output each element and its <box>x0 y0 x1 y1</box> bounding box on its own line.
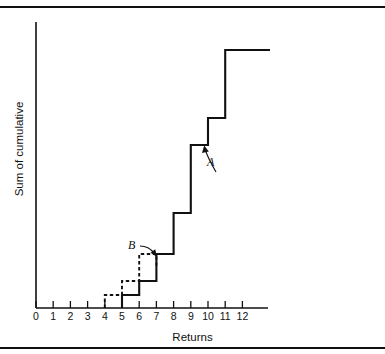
x-tick-label-3: 3 <box>80 310 96 322</box>
annotation-label-b: B <box>128 238 135 253</box>
x-tick-label-2: 2 <box>62 310 78 322</box>
x-axis-label: Returns <box>0 331 385 343</box>
annotation-label-a: A <box>207 155 214 170</box>
figure-container: 0 1 2 3 4 5 6 7 8 9 10 11 12 Returns Sum… <box>0 0 385 354</box>
x-tick-label-12: 12 <box>232 310 252 322</box>
x-tick-label-9: 9 <box>183 310 199 322</box>
x-tick-label-6: 6 <box>131 310 147 322</box>
x-tick-label-8: 8 <box>166 310 182 322</box>
x-axis-ticks <box>36 301 242 308</box>
x-tick-label-5: 5 <box>114 310 130 322</box>
x-tick-label-0: 0 <box>28 310 44 322</box>
y-axis-label: Sum of cumulative <box>13 69 25 229</box>
x-tick-label-7: 7 <box>148 310 164 322</box>
chart-canvas <box>0 0 385 354</box>
x-tick-label-1: 1 <box>45 310 61 322</box>
solid-step-curve <box>122 50 270 308</box>
x-tick-label-4: 4 <box>97 310 113 322</box>
annotation-B-leader <box>140 246 157 257</box>
